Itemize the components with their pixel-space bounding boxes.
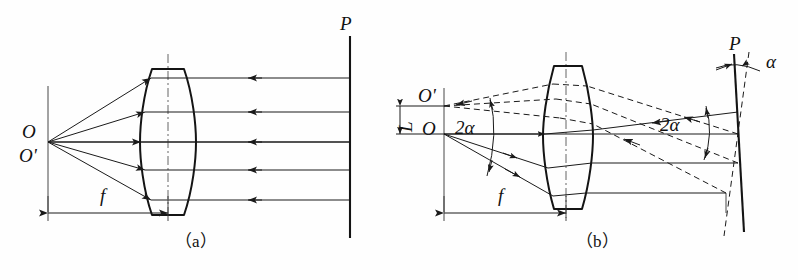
panel-b-screen-P (734, 54, 744, 232)
panel-b-lens-internal-1 (545, 130, 593, 134)
panel-b-source-ray-lower-1-arrow (503, 153, 517, 158)
panel-a-group (48, 36, 350, 238)
panel-b-lens-internal-dash-2 (556, 99, 591, 104)
panel-b-screen-label-P: P (729, 34, 741, 53)
panel-b-image-label-O-prime: O' (418, 86, 436, 105)
panel-b-angle-arc-left-arrow-up (490, 100, 493, 110)
panel-b-caption: （b） (576, 233, 619, 250)
panel-b-focal-length-label: f (498, 186, 503, 205)
panel-b-lens-internal-dash-3 (560, 118, 593, 124)
panel-b-group (396, 52, 760, 236)
panel-a-caption: （a） (175, 233, 217, 250)
panel-a-source-ray-4 (48, 142, 145, 170)
diagram-canvas (0, 0, 798, 280)
panel-a-source-ray-2 (48, 112, 145, 142)
panel-a-focal-length-label: f (100, 186, 105, 205)
panel-a-source-label-O-prime: O' (19, 146, 37, 165)
optical-diagram-figure: O O' P f （a） O' O L 2α 2α P α f （b） (0, 0, 798, 280)
panel-b-lens-internal-2 (548, 163, 592, 168)
panel-b-tilt-angle-label: α (766, 52, 776, 71)
panel-a-source-ray-1 (48, 78, 151, 142)
panel-b-angle-label-right: 2α (660, 115, 679, 134)
panel-a-screen-label-P: P (340, 14, 352, 33)
panel-a-source-label-O: O (22, 122, 36, 141)
panel-b-source-label-O: O (422, 119, 436, 138)
panel-b-screen-normal-dashed (724, 52, 749, 236)
panel-b-angle-label-left: 2α (455, 118, 474, 137)
panel-b-separation-label-L: L (396, 121, 415, 132)
panel-b-lens (543, 66, 593, 209)
panel-b-source-ray-lower-1 (444, 134, 548, 168)
panel-b-lens-internal-3 (553, 193, 586, 196)
panel-b-image-ray-upper-2 (444, 99, 556, 106)
panel-b-source-ray-lower-2-arrow (505, 169, 520, 177)
panel-b-lens-internal-dash-1 (553, 84, 587, 86)
